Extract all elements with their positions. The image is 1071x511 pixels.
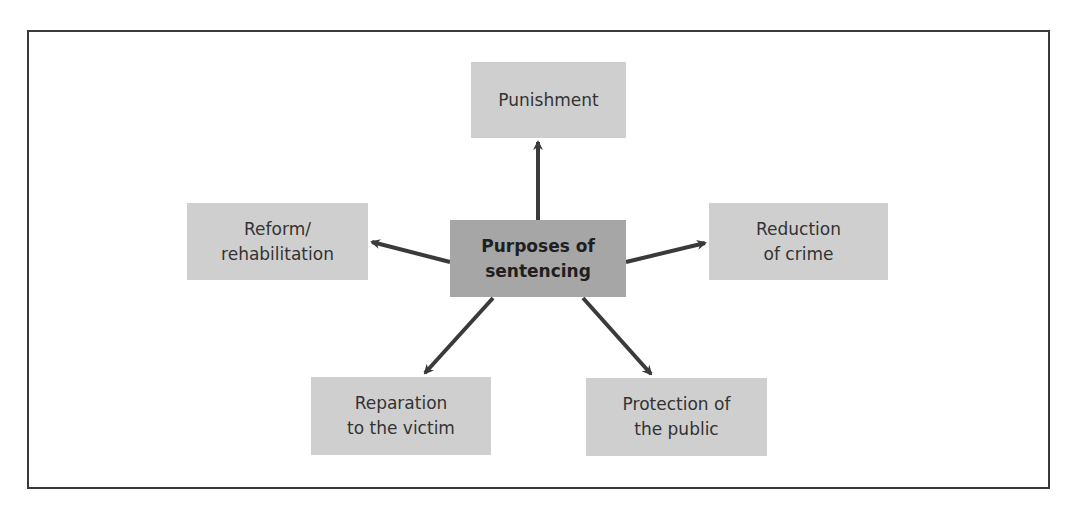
center-node-label: Purposes of sentencing: [481, 234, 595, 284]
node-reduction-label: Reduction of crime: [756, 217, 841, 267]
node-punishment-label: Punishment: [498, 88, 598, 113]
arrow-to-reduction: [626, 243, 705, 262]
node-reduction-of-crime: Reduction of crime: [709, 203, 888, 280]
arrow-to-reparation: [425, 298, 493, 373]
node-protection-label: Protection of the public: [623, 392, 731, 442]
node-protection-of-public: Protection of the public: [586, 378, 767, 456]
arrow-to-protection: [583, 298, 651, 374]
arrow-to-reform: [372, 242, 450, 262]
center-node-purposes-of-sentencing: Purposes of sentencing: [450, 220, 626, 297]
node-reparation-to-victim: Reparation to the victim: [311, 377, 491, 455]
node-reparation-label: Reparation to the victim: [347, 391, 455, 441]
node-punishment: Punishment: [471, 62, 626, 138]
node-reform-rehabilitation: Reform/ rehabilitation: [187, 203, 368, 280]
node-reform-label: Reform/ rehabilitation: [221, 217, 334, 267]
